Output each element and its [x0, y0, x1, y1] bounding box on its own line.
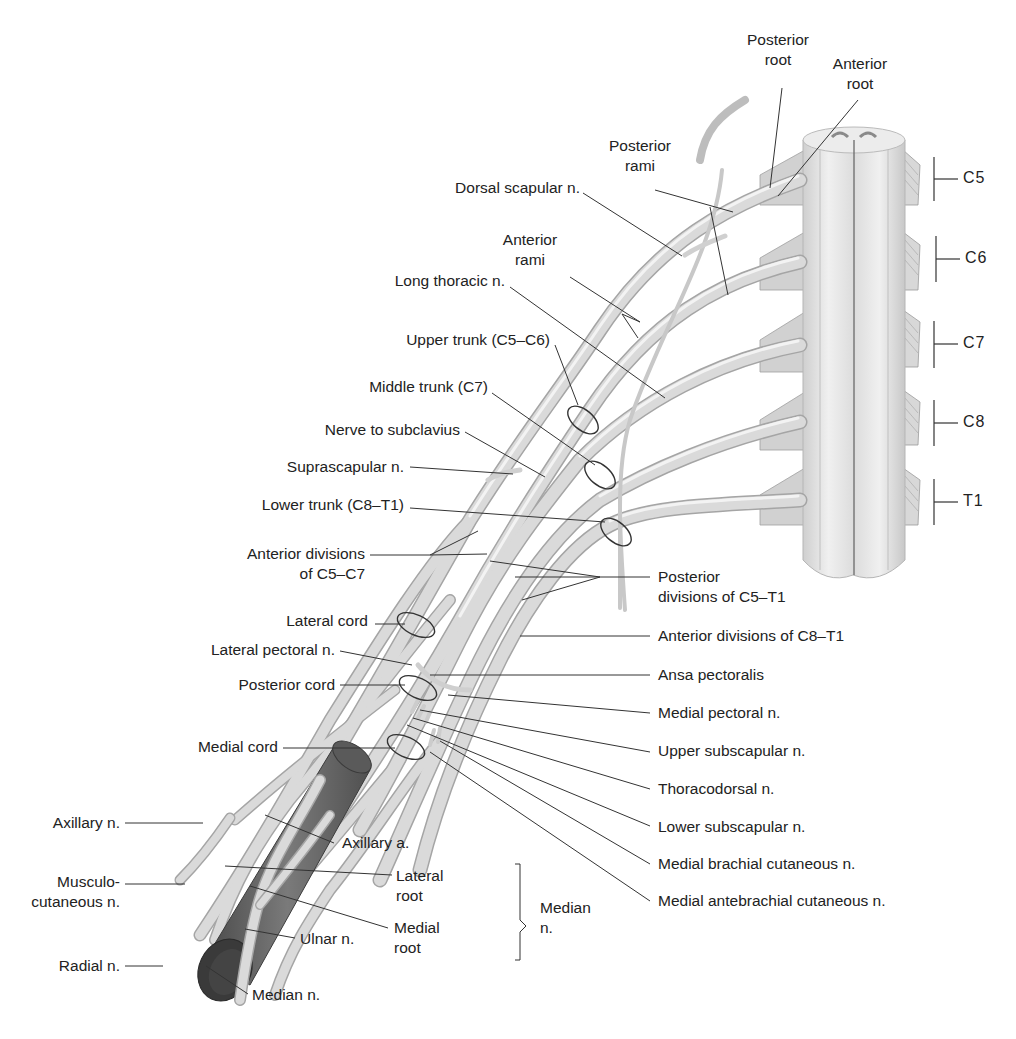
- label-median-nerve: Median n.: [252, 985, 320, 1005]
- label-anterior-divisions-c5-c7: Anterior divisions of C5–C7: [150, 544, 365, 584]
- label-anterior-root: Anterior root: [820, 54, 900, 94]
- label-ulnar-nerve: Ulnar n.: [300, 929, 354, 949]
- label-dorsal-scapular: Dorsal scapular n.: [380, 178, 580, 198]
- segment-label-c5: C5: [963, 169, 985, 187]
- label-median-nerve-bracket: Median n.: [540, 898, 591, 938]
- label-line: rami: [490, 250, 570, 270]
- label-line: Anterior: [490, 230, 570, 250]
- label-line: Median: [540, 898, 591, 918]
- segment-label-c7: C7: [963, 334, 985, 352]
- label-line: rami: [600, 156, 680, 176]
- label-posterior-cord: Posterior cord: [170, 675, 335, 695]
- label-posterior-rami: Posterior rami: [600, 136, 680, 176]
- label-line: divisions of C5–T1: [658, 587, 786, 607]
- label-lower-trunk: Lower trunk (C8–T1): [180, 495, 404, 515]
- label-thoracodorsal: Thoracodorsal n.: [658, 779, 774, 799]
- label-line: Medial: [394, 918, 440, 938]
- segment-brackets: [934, 157, 960, 525]
- label-anterior-rami: Anterior rami: [490, 230, 570, 270]
- segment-label-c8: C8: [963, 413, 985, 431]
- segment-label-t1: T1: [963, 492, 984, 510]
- label-suprascapular: Suprascapular n.: [200, 457, 404, 477]
- label-upper-subscapular: Upper subscapular n.: [658, 741, 805, 761]
- label-line: root: [394, 938, 440, 958]
- label-anterior-divisions-c8-t1: Anterior divisions of C8–T1: [658, 626, 844, 646]
- anatomy-illustration: [0, 0, 1016, 1039]
- segment-label-c6: C6: [965, 249, 987, 267]
- label-line: of C5–C7: [150, 564, 365, 584]
- label-posterior-root: Posterior root: [733, 30, 823, 70]
- label-musculocutaneous: Musculo- cutaneous n.: [10, 872, 120, 912]
- label-upper-trunk: Upper trunk (C5–C6): [300, 330, 550, 350]
- label-line: root: [820, 74, 900, 94]
- label-lateral-pectoral: Lateral pectoral n.: [150, 640, 335, 660]
- label-line: Posterior: [600, 136, 680, 156]
- label-long-thoracic: Long thoracic n.: [300, 271, 505, 291]
- label-line: n.: [540, 918, 591, 938]
- label-radial-nerve: Radial n.: [20, 956, 120, 976]
- label-axillary-nerve: Axillary n.: [20, 813, 120, 833]
- label-line: Lateral: [396, 866, 443, 886]
- brachial-plexus-figure: C5 C6 C7 C8 T1 Posterior root Anterior r…: [0, 0, 1016, 1039]
- label-axillary-artery: Axillary a.: [342, 833, 409, 853]
- label-line: Anterior: [820, 54, 900, 74]
- label-line: cutaneous n.: [10, 892, 120, 912]
- label-line: root: [733, 50, 823, 70]
- label-line: Anterior divisions: [150, 544, 365, 564]
- label-lateral-cord: Lateral cord: [200, 611, 368, 631]
- label-line: Posterior: [733, 30, 823, 50]
- label-lower-subscapular: Lower subscapular n.: [658, 817, 805, 837]
- label-line: root: [396, 886, 443, 906]
- label-medial-antebrachial-cutaneous: Medial antebrachial cutaneous n.: [658, 891, 885, 911]
- label-lateral-root: Lateral root: [396, 866, 443, 906]
- label-medial-pectoral: Medial pectoral n.: [658, 703, 780, 723]
- label-line: Musculo-: [10, 872, 120, 892]
- label-middle-trunk: Middle trunk (C7): [280, 377, 488, 397]
- label-medial-root: Medial root: [394, 918, 440, 958]
- label-line: Posterior: [658, 567, 786, 587]
- label-ansa-pectoralis: Ansa pectoralis: [658, 665, 764, 685]
- label-posterior-divisions: Posterior divisions of C5–T1: [658, 567, 786, 607]
- label-medial-cord: Medial cord: [150, 737, 278, 757]
- label-medial-brachial-cutaneous: Medial brachial cutaneous n.: [658, 854, 855, 874]
- label-nerve-to-subclavius: Nerve to subclavius: [260, 420, 460, 440]
